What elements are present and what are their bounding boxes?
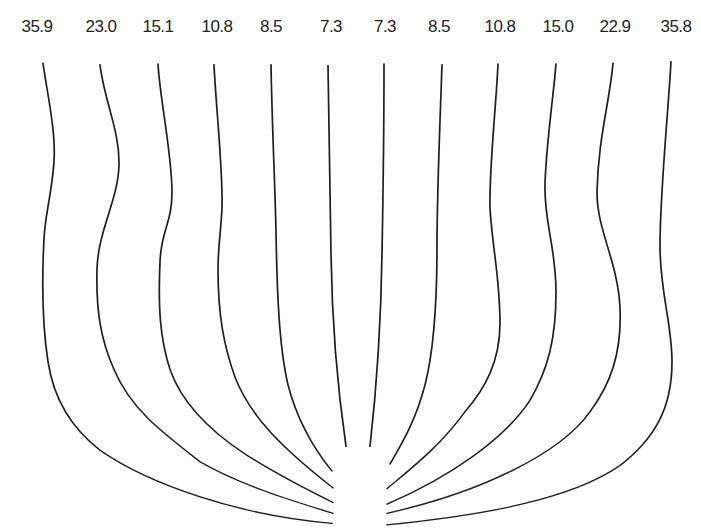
streamline-diagram: 35.923.015.110.88.57.37.38.510.815.022.9…	[0, 0, 701, 531]
streamline-curve	[390, 65, 442, 464]
streamline-curve	[387, 63, 620, 513]
streamline-curve	[271, 65, 332, 471]
curve-set	[0, 0, 701, 531]
streamline-curve	[387, 62, 672, 525]
streamline-curve	[158, 64, 333, 503]
streamline-curve	[328, 65, 346, 446]
streamline-curve	[43, 63, 332, 523]
streamline-curve	[370, 64, 384, 446]
streamline-curve	[97, 65, 333, 514]
streamline-curve	[387, 64, 556, 504]
streamline-curve	[387, 64, 500, 489]
